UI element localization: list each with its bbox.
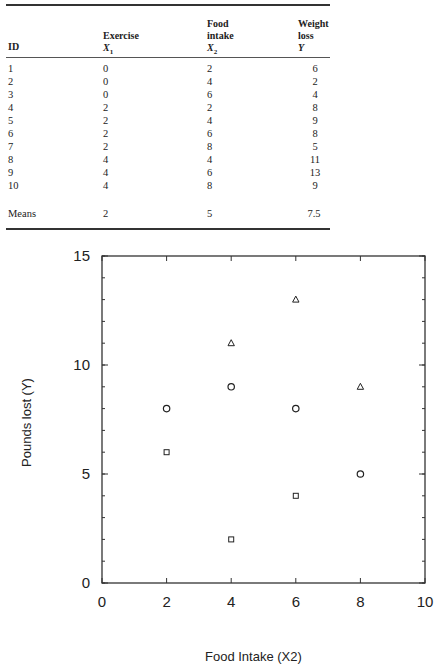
scatter-plot: 0246810051015 (0, 0, 435, 664)
plot-axes: 0246810051015 (73, 247, 433, 610)
x-tick-label: 10 (417, 593, 434, 610)
plot-points (163, 296, 363, 542)
x-tick-label: 8 (356, 593, 364, 610)
y-tick-label: 10 (73, 356, 90, 373)
x-axis-label: Food Intake (X2) (205, 649, 302, 664)
circle-marker-icon (357, 471, 363, 477)
circle-marker-icon (163, 405, 169, 411)
circle-marker-icon (293, 405, 299, 411)
y-tick-label: 15 (73, 247, 90, 264)
triangle-marker-icon (357, 383, 363, 389)
square-marker-icon (164, 450, 169, 455)
plot-frame (102, 256, 425, 583)
triangle-marker-icon (293, 296, 299, 302)
x-tick-label: 0 (98, 593, 106, 610)
x-tick-label: 4 (227, 593, 235, 610)
y-axis-label: Pounds lost (Y) (19, 373, 34, 473)
y-tick-label: 5 (82, 465, 90, 482)
circle-marker-icon (228, 384, 234, 390)
triangle-marker-icon (228, 340, 234, 346)
y-tick-label: 0 (82, 574, 90, 591)
square-marker-icon (293, 493, 298, 498)
x-tick-label: 2 (162, 593, 170, 610)
x-tick-label: 6 (292, 593, 300, 610)
square-marker-icon (229, 537, 234, 542)
